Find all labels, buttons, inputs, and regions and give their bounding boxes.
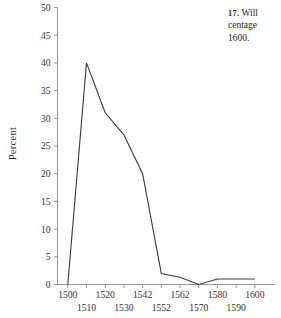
figure-chart-17: 17. Will centage 1600. Percent 051015202… (0, 0, 281, 318)
y-tick-label: 15 (41, 196, 51, 207)
x-tick-label: 1552 (152, 302, 171, 313)
x-tick-label: 1520 (96, 289, 115, 300)
y-tick-label: 40 (41, 57, 51, 68)
x-tick-label: 1542 (133, 289, 152, 300)
y-tick-label: 35 (41, 85, 51, 96)
x-tick-label: 1590 (227, 302, 246, 313)
y-tick-label: 0 (46, 279, 51, 290)
y-tick-label: 50 (41, 2, 51, 13)
y-tick-label: 20 (41, 168, 51, 179)
y-tick-label: 10 (41, 224, 51, 235)
x-tick-label: 1562 (170, 289, 189, 300)
x-tick-label: 1580 (208, 289, 227, 300)
x-tick-label: 1500 (58, 289, 77, 300)
x-tick-label: 1570 (189, 302, 208, 313)
x-tick-label: 1530 (114, 302, 133, 313)
y-tick-label: 30 (41, 113, 51, 124)
y-tick-label: 45 (41, 30, 51, 41)
x-tick-label: 1600 (245, 289, 264, 300)
line-chart-plot: 05101520253035404550 1500151015201530154… (0, 0, 281, 318)
y-tick-label: 5 (46, 251, 51, 262)
y-tick-label: 25 (41, 140, 51, 151)
x-tick-label: 1510 (77, 302, 96, 313)
y-axis-ticks: 05101520253035404550 (41, 2, 58, 290)
data-series-percent (68, 63, 255, 285)
x-axis-ticks: 1500151015201530154215521562157015801590… (58, 285, 264, 314)
